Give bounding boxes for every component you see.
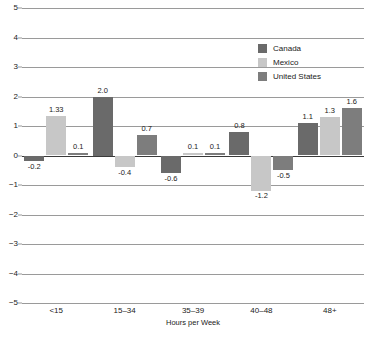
- y-tick-label: 2: [14, 93, 18, 101]
- y-tick-label: 4: [14, 34, 18, 42]
- bar-mexico[interactable]: [46, 116, 66, 155]
- bar-value-label: 0.1: [188, 143, 198, 151]
- bar-slot: 0.8: [228, 8, 250, 303]
- bar-united-states[interactable]: [68, 153, 88, 156]
- bar-value-label: 1.1: [303, 113, 313, 121]
- bar-canada[interactable]: [298, 123, 318, 155]
- bar-united-states[interactable]: [342, 108, 362, 155]
- bar-slot: -0.6: [160, 8, 182, 303]
- bar-mexico[interactable]: [320, 117, 340, 155]
- bar-canada[interactable]: [24, 156, 44, 162]
- y-tick-label: 3: [14, 63, 18, 71]
- bar-chart: 543210−1−2−3−4−5 -0.21.330.12.0-0.40.7-0…: [0, 0, 371, 337]
- y-tick-label: −2: [9, 211, 18, 219]
- bar-group-bars: -0.60.10.1: [159, 8, 227, 303]
- bar-value-label: 2.0: [97, 87, 107, 95]
- bar-slot: 0.1: [204, 8, 226, 303]
- bar-value-label: -1.2: [255, 192, 268, 200]
- bar-united-states[interactable]: [205, 153, 225, 156]
- plot-area: 543210−1−2−3−4−5 -0.21.330.12.0-0.40.7-0…: [22, 8, 364, 303]
- bar-group: -0.21.330.1: [22, 8, 90, 303]
- y-tick-label: 0: [14, 152, 18, 160]
- bar-canada[interactable]: [229, 132, 249, 156]
- x-axis-title: Hours per Week: [22, 318, 364, 327]
- y-tick-label: −5: [9, 299, 18, 307]
- bar-value-label: 0.1: [73, 143, 83, 151]
- bar-mexico[interactable]: [115, 156, 135, 168]
- chart-legend: Canada Mexico United States: [258, 44, 321, 81]
- legend-label-mexico: Mexico: [273, 59, 298, 67]
- bar-value-label: 0.8: [234, 122, 244, 130]
- bar-united-states[interactable]: [273, 156, 293, 171]
- x-tick-label: 40–48: [227, 306, 295, 315]
- legend-label-canada: Canada: [273, 45, 301, 53]
- legend-swatch-united-states: [258, 72, 267, 81]
- bar-canada[interactable]: [93, 97, 113, 156]
- y-tick-label: 5: [14, 4, 18, 12]
- bar-mexico[interactable]: [183, 153, 203, 156]
- bar-slot: 1.33: [45, 8, 67, 303]
- bar-value-label: 1.3: [325, 107, 335, 115]
- bar-mexico[interactable]: [251, 156, 271, 191]
- bar-value-label: 1.33: [49, 106, 64, 114]
- bar-value-label: 0.7: [141, 125, 151, 133]
- bar-value-label: -0.4: [118, 169, 131, 177]
- x-axis-tick-labels: <1515–3435–3940–4848+: [22, 306, 364, 315]
- bar-value-label: 0.1: [210, 143, 220, 151]
- bar-value-label: 1.6: [347, 98, 357, 106]
- bar-group: -0.60.10.1: [159, 8, 227, 303]
- x-tick-label: 35–39: [159, 306, 227, 315]
- legend-item-mexico[interactable]: Mexico: [258, 58, 321, 67]
- legend-item-canada[interactable]: Canada: [258, 44, 321, 53]
- x-tick-label: 48+: [296, 306, 364, 315]
- legend-label-united-states: United States: [273, 73, 321, 81]
- y-tick-label: −4: [9, 270, 18, 278]
- bar-group: 2.0-0.40.7: [90, 8, 158, 303]
- bar-slot: 0.7: [136, 8, 158, 303]
- bar-slot: -0.2: [23, 8, 45, 303]
- y-tick-label: −1: [9, 181, 18, 189]
- bar-canada[interactable]: [161, 156, 181, 174]
- bar-value-label: -0.5: [277, 172, 290, 180]
- bar-slot: 2.0: [92, 8, 114, 303]
- bar-slot: 1.3: [319, 8, 341, 303]
- bar-group-bars: -0.21.330.1: [22, 8, 90, 303]
- legend-item-united-states[interactable]: United States: [258, 72, 321, 81]
- x-tick-label: 15–34: [90, 306, 158, 315]
- bar-slot: -0.4: [114, 8, 136, 303]
- legend-swatch-mexico: [258, 58, 267, 67]
- bar-group-bars: 2.0-0.40.7: [90, 8, 158, 303]
- bar-slot: 0.1: [67, 8, 89, 303]
- y-tick-label: −3: [9, 240, 18, 248]
- bar-value-label: -0.2: [28, 163, 41, 171]
- x-tick-label: <15: [22, 306, 90, 315]
- bar-united-states[interactable]: [137, 135, 157, 156]
- bar-slot: 0.1: [182, 8, 204, 303]
- bar-value-label: -0.6: [165, 175, 178, 183]
- legend-swatch-canada: [258, 44, 267, 53]
- bar-slot: 1.6: [341, 8, 363, 303]
- y-tick-label: 1: [14, 122, 18, 130]
- gridline-neg5: [22, 303, 364, 304]
